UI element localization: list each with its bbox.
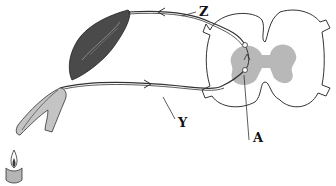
diagram-graphic: [0, 0, 336, 186]
label-z: Z: [199, 5, 209, 18]
label-a: A: [253, 131, 263, 144]
candle: [6, 168, 22, 183]
label-y: Y: [178, 116, 187, 129]
reflex-arc-diagram: Z Y A: [0, 0, 336, 186]
